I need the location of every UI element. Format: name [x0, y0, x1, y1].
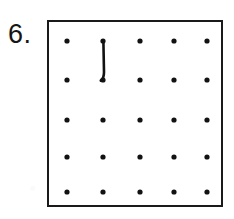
- grid-dot[interactable]: [204, 77, 209, 82]
- grid-dot[interactable]: [64, 117, 69, 122]
- grid-dot[interactable]: [137, 189, 142, 194]
- grid-dot[interactable]: [171, 117, 176, 122]
- geoboard-inner: [49, 22, 221, 205]
- grid-dot[interactable]: [171, 77, 176, 82]
- grid-dot[interactable]: [204, 189, 209, 194]
- grid-dot[interactable]: [137, 77, 142, 82]
- grid-dot[interactable]: [137, 117, 142, 122]
- grid-dot[interactable]: [204, 38, 209, 43]
- dot-grid: [49, 22, 225, 209]
- grid-dot[interactable]: [100, 154, 105, 159]
- grid-dot[interactable]: [100, 77, 105, 82]
- grid-dot[interactable]: [64, 77, 69, 82]
- grid-dot[interactable]: [171, 38, 176, 43]
- grid-dot[interactable]: [64, 38, 69, 43]
- worksheet-item: 6.: [0, 0, 234, 219]
- grid-dot[interactable]: [100, 117, 105, 122]
- grid-dot[interactable]: [171, 154, 176, 159]
- problem-number: 6.: [8, 17, 42, 51]
- geoboard-frame[interactable]: [47, 20, 223, 207]
- grid-dot[interactable]: [137, 154, 142, 159]
- grid-dot[interactable]: [137, 38, 142, 43]
- grid-dot[interactable]: [171, 189, 176, 194]
- grid-dot[interactable]: [64, 189, 69, 194]
- grid-dot[interactable]: [100, 189, 105, 194]
- grid-dot[interactable]: [100, 38, 105, 43]
- grid-dot[interactable]: [64, 154, 69, 159]
- grid-dot[interactable]: [204, 154, 209, 159]
- grid-dot[interactable]: [204, 117, 209, 122]
